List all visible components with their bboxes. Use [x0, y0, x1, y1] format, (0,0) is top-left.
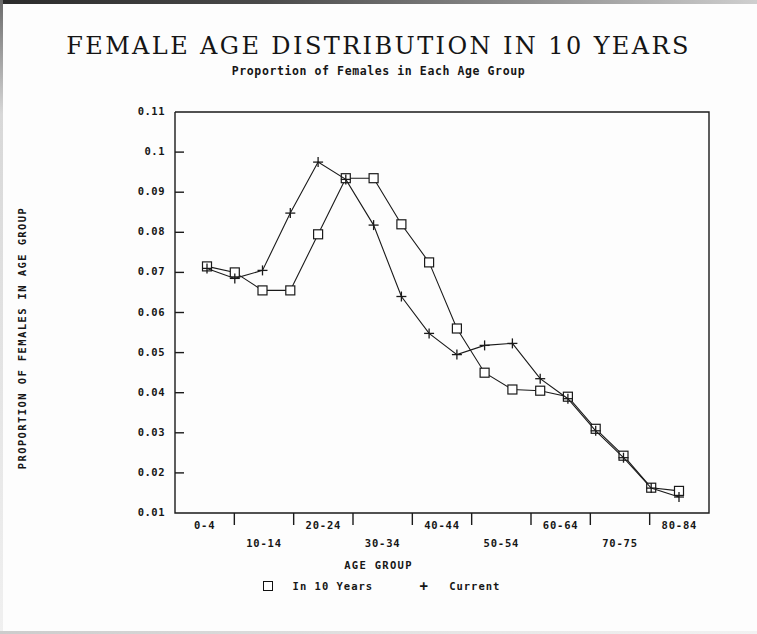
legend-item-current: + Current [413, 580, 500, 592]
y-tick-label: 0.09 [113, 185, 165, 197]
y-tick-label: 0.05 [113, 346, 165, 358]
data-point-plus [285, 208, 295, 218]
data-point-square [258, 286, 267, 295]
chart-page: FEMALE AGE DISTRIBUTION IN 10 YEARS Prop… [0, 0, 757, 634]
y-tick-label: 0.01 [113, 506, 165, 518]
data-point-plus [480, 340, 490, 350]
plus-marker-icon: + [413, 581, 435, 591]
data-point-square [508, 385, 517, 394]
data-series-group [202, 157, 684, 502]
plot-frame [175, 112, 709, 513]
x-tick-label: 20-24 [288, 519, 358, 531]
y-tick-label: 0.04 [113, 386, 165, 398]
series-line-in-10-years [207, 178, 679, 491]
data-point-square [480, 368, 489, 377]
data-point-square [397, 220, 406, 229]
legend-item-in-10-years: In 10 Years [257, 580, 414, 592]
data-point-plus [535, 374, 545, 384]
data-point-plus [258, 265, 268, 275]
y-tick-label: 0.06 [113, 306, 165, 318]
y-tick-label: 0.1 [113, 145, 165, 157]
y-tick-label: 0.08 [113, 225, 165, 237]
x-tick-label: 60-64 [526, 519, 596, 531]
data-point-square [369, 174, 378, 183]
data-point-plus [424, 328, 434, 338]
data-point-plus [369, 220, 379, 230]
legend-label-current: Current [435, 580, 500, 592]
data-point-square [536, 386, 545, 395]
x-tick-label: 40-44 [407, 519, 477, 531]
data-point-square [314, 230, 323, 239]
x-tick-label: 0-4 [170, 519, 240, 531]
series-line-current [207, 162, 679, 497]
x-tick-label: 30-34 [348, 537, 418, 549]
data-point-square [425, 258, 434, 267]
x-tick-label: 80-84 [644, 519, 714, 531]
x-tick-label: 10-14 [229, 537, 299, 549]
y-tick-label: 0.07 [113, 265, 165, 277]
data-point-square [286, 286, 295, 295]
y-tick-label: 0.11 [113, 105, 165, 117]
axes [175, 112, 709, 513]
x-tick-label: 50-54 [466, 537, 536, 549]
data-point-plus [396, 292, 406, 302]
square-marker-icon [257, 581, 279, 591]
chart-legend: In 10 Years + Current [0, 580, 757, 592]
legend-label-in-10-years: In 10 Years [279, 580, 414, 592]
data-point-square [452, 324, 461, 333]
data-point-plus [313, 157, 323, 167]
y-tick-label: 0.02 [113, 466, 165, 478]
data-point-plus [507, 338, 517, 348]
data-point-plus [452, 350, 462, 360]
x-tick-label: 70-75 [585, 537, 655, 549]
y-axis-ticks [175, 152, 184, 473]
y-tick-label: 0.03 [113, 426, 165, 438]
